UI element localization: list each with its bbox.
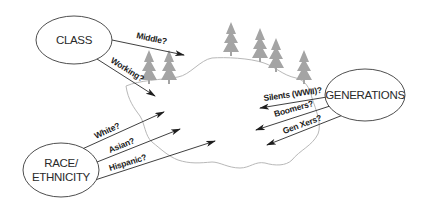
tree-icon bbox=[252, 28, 268, 62]
class-node: CLASS bbox=[36, 16, 112, 64]
race-node-label-line2: ETHNICITY bbox=[32, 171, 91, 183]
edge-label-middle: Middle? bbox=[136, 30, 168, 46]
tree-icon bbox=[296, 50, 312, 84]
edge-label-silents: Silents (WWII)? bbox=[263, 85, 323, 103]
race-ethnicity-node: RACE/ ETHNICITY bbox=[23, 143, 99, 197]
tree-icon bbox=[161, 50, 177, 84]
tree-icon bbox=[223, 22, 239, 56]
race-node-label-line1: RACE/ bbox=[44, 157, 79, 169]
edge-label-gen-xers: Gen Xers? bbox=[281, 113, 323, 136]
edge-label-working: Working? bbox=[109, 55, 146, 83]
tree-icon bbox=[268, 38, 284, 72]
diagram-canvas: Middle? Working? CLASS Silents (WWII)? B… bbox=[0, 0, 428, 209]
generations-node-label: GENERATIONS bbox=[325, 89, 405, 101]
generations-node: GENERATIONS bbox=[325, 69, 405, 121]
class-node-label: CLASS bbox=[56, 34, 93, 46]
